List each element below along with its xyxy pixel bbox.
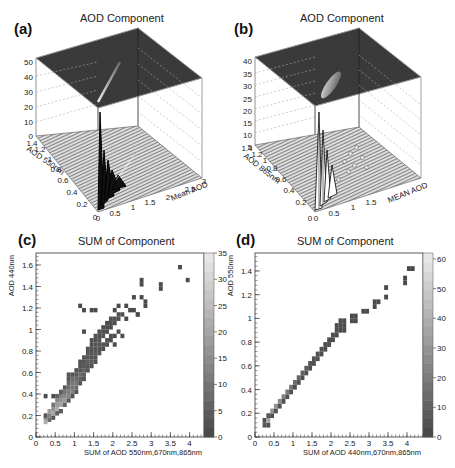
heatmap-cell: [78, 360, 82, 364]
heatmap-cell: [316, 352, 320, 357]
heatmap-cell: [384, 285, 388, 290]
heatmap-cell: [373, 299, 377, 304]
heatmap-cell: [59, 409, 63, 413]
heatmap-cell: [339, 328, 343, 333]
heatmap-cell: [263, 423, 267, 428]
heatmap-cell: [97, 342, 101, 346]
x-tick-label: 3.5: [165, 439, 177, 448]
heatmap-cell: [97, 351, 101, 355]
heatmap-cell: [361, 309, 365, 314]
svg-text:0.5: 0.5: [328, 209, 340, 218]
heatmap-cell: [350, 314, 354, 319]
heatmap-cell: [128, 308, 132, 312]
heatmap-cell: [159, 282, 163, 286]
heatmap-cell: [101, 334, 105, 338]
y-tick-label: 1.2: [241, 291, 253, 300]
heatmap-cell: [67, 390, 71, 394]
heatmap-cell: [143, 299, 147, 303]
heatmap-cell: [117, 329, 121, 333]
heatmap-cell: [97, 334, 101, 338]
x-tick-label: 1: [72, 439, 77, 448]
heatmap-cell: [71, 377, 75, 381]
svg-text:0: 0: [96, 214, 101, 223]
svg-text:10: 10: [243, 131, 252, 140]
heatmap-cell: [82, 308, 86, 312]
heatmap-cell: [94, 355, 98, 359]
x-tick-label: 0.5: [50, 439, 62, 448]
heatmap-cell: [74, 372, 78, 376]
heatmap-cell: [105, 321, 109, 325]
x-tick-label: 1.5: [88, 439, 100, 448]
y-tick-label: 0.6: [22, 369, 34, 378]
heatmap-cell: [78, 372, 82, 376]
heatmap-cell: [63, 385, 67, 389]
svg-text:15: 15: [243, 119, 252, 128]
heatmap-cell: [59, 403, 63, 407]
y-tick-label: 0.6: [241, 362, 253, 371]
heatmap-cell: [270, 409, 274, 414]
heatmap-cell: [323, 347, 327, 352]
heatmap-cell: [159, 286, 163, 290]
heatmap-cell: [335, 323, 339, 328]
y-tick-label: 1: [29, 326, 34, 335]
z-axis-ticks-b: 5 10 15 20 25 30 35 40: [243, 57, 252, 152]
colorbar: 05101520253035: [204, 249, 227, 442]
heatmap-cell: [140, 295, 144, 299]
heatmap-cell: [109, 334, 113, 338]
heatmap-cell: [331, 333, 335, 338]
heatmap-cell: [63, 403, 67, 407]
heatmap-cell: [71, 381, 75, 385]
heatmap-cell: [55, 403, 59, 407]
heatmap-cell: [342, 318, 346, 323]
x-tick-label: 0.5: [268, 439, 280, 448]
y-tick-label: 0: [248, 433, 253, 442]
y-tick-label: 1.6: [22, 261, 34, 270]
heatmap-cell: [278, 404, 282, 409]
svg-text:25: 25: [243, 95, 252, 104]
panel-c: (c) SUM of Component 00.511.522.533.5400…: [0, 228, 228, 468]
heatmap-cell: [117, 304, 121, 308]
svg-text:0.2: 0.2: [295, 198, 307, 207]
heatmap-cell: [373, 304, 377, 309]
heatmap-cell: [71, 394, 75, 398]
heatmap-cell: [101, 329, 105, 333]
heatmap-cell: [55, 407, 59, 411]
heatmap-cell: [94, 342, 98, 346]
heatmap-cell: [274, 404, 278, 409]
x-tick-label: 0: [253, 439, 258, 448]
heatmap-cell: [82, 372, 86, 376]
heatmap-cell: [365, 309, 369, 314]
svg-text:0.6: 0.6: [57, 176, 69, 185]
heatmap-cell: [342, 323, 346, 328]
y-tick-label: 1: [248, 314, 253, 323]
y-tick-label: 1.4: [22, 283, 34, 292]
svg-text:0.4: 0.4: [283, 186, 295, 195]
heatmap-cell: [109, 317, 113, 321]
svg-text:10: 10: [24, 118, 33, 127]
colorbar-tick-label: 60: [437, 255, 446, 264]
heatmap-cell: [67, 385, 71, 389]
panel-d: (d) SUM of Component 00.511.522.533.5400…: [225, 228, 455, 468]
colorbar-tick-label: 0: [218, 433, 223, 442]
heatmap-cell: [289, 390, 293, 395]
y-tick-label: 0.2: [22, 412, 34, 421]
heatmap-cell: [86, 360, 90, 364]
heatmap-cell: [282, 399, 286, 404]
heatmap-cell: [411, 266, 415, 271]
heatmap-cell: [78, 304, 82, 308]
heatmap-cell: [71, 385, 75, 389]
heatmap-cell: [90, 364, 94, 368]
colorbar-tick-label: 30: [437, 344, 446, 353]
heatmap-cell: [78, 377, 82, 381]
svg-text:1.5: 1.5: [144, 198, 156, 207]
y-tick-label: 0.4: [22, 390, 34, 399]
y-tick-label: 0.8: [22, 347, 34, 356]
heatmap-cell: [74, 368, 78, 372]
heatmap-cell: [301, 371, 305, 376]
heatmap-cell: [90, 342, 94, 346]
heatmap-cell: [86, 368, 90, 372]
svg-text:20: 20: [24, 103, 33, 112]
heatmap-cell: [278, 399, 282, 404]
heatmap-cell: [316, 356, 320, 361]
heatmap-cell: [335, 328, 339, 333]
